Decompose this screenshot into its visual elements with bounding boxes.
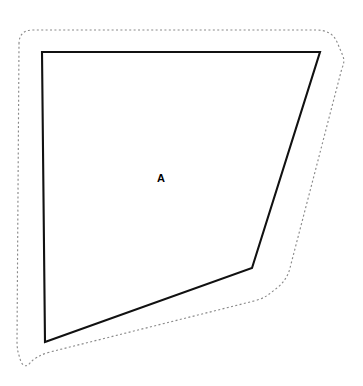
parcel-diagram: A [0,0,363,386]
figure-canvas: A [0,0,363,386]
parcel-label-a: A [157,172,165,184]
